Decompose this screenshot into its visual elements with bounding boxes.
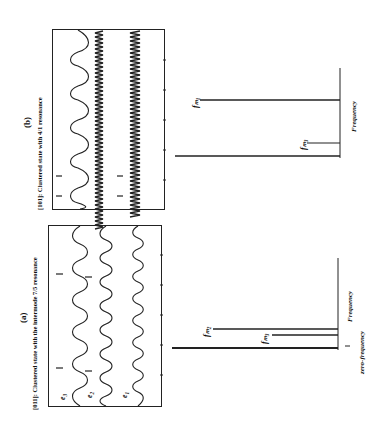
panel-a-fm3-label: fₘ₃	[260, 334, 269, 344]
panel-a-trace-e1	[133, 226, 144, 406]
panel-a-trace-e3	[73, 226, 88, 406]
panel-a-zero-frequency-label: zero-frequency	[358, 331, 366, 374]
panel-a-frequency-axis-label: Frequency	[346, 291, 354, 322]
panel-a-trace-e2	[100, 226, 112, 406]
panel-b-frequency-axis-label: Frequency	[350, 101, 358, 132]
panel-b-trace-1	[71, 30, 89, 209]
panel-b-trace-3	[130, 31, 140, 217]
panel-a-arrows	[56, 274, 92, 371]
panel-b-spectrum	[175, 68, 340, 158]
panel-b-fm3-label: fₘ₃	[299, 140, 308, 150]
panel-a-fm2-label: fₘ₂	[202, 327, 211, 337]
figure-graphics	[0, 0, 386, 432]
panel-b-arrows	[56, 176, 123, 196]
panel-b-fm1-label: fₘ₁	[191, 98, 200, 108]
panel-b-trace-2	[95, 31, 103, 229]
